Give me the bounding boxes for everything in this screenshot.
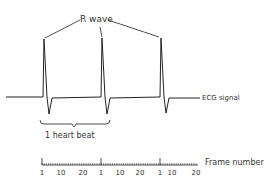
r-wave-pointer — [45, 20, 80, 38]
heart-beat-label: 1 heart beat — [45, 131, 95, 140]
svg-text:1: 1 — [158, 169, 162, 177]
frame-number-label: Frame number — [205, 158, 264, 167]
svg-text:20: 20 — [79, 169, 88, 177]
svg-text:1: 1 — [99, 169, 103, 177]
ecg-trace — [6, 38, 200, 114]
svg-text:10: 10 — [57, 169, 66, 177]
svg-text:10: 10 — [116, 169, 125, 177]
frame-tick-labels: 110201102011020 — [40, 169, 201, 177]
svg-text:10: 10 — [168, 169, 177, 177]
frame-timeline — [42, 158, 198, 165]
ecg-frame-diagram: R wave ECG signal 1 heart beat 110201102… — [0, 0, 266, 187]
svg-text:20: 20 — [192, 169, 201, 177]
r-wave-pointer — [100, 27, 102, 37]
svg-text:20: 20 — [136, 169, 145, 177]
heart-beat-brace — [40, 120, 110, 127]
r-wave-label: R wave — [80, 14, 113, 24]
ecg-signal-label: ECG signal — [202, 94, 240, 102]
r-wave-pointer — [108, 20, 159, 37]
svg-text:1: 1 — [40, 169, 44, 177]
diagram-canvas: R wave ECG signal 1 heart beat 110201102… — [0, 0, 266, 187]
